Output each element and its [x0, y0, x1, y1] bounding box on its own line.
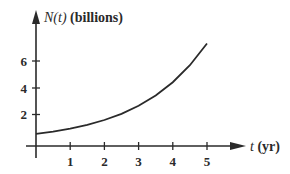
x-axis-title: t (yr)	[250, 139, 280, 155]
x-tick-label: 4	[170, 154, 177, 169]
y-axis-arrow-icon	[32, 10, 40, 24]
y-axis-var: N(t)	[43, 10, 67, 26]
y-ticks: 246	[21, 54, 41, 123]
y-tick-label: 2	[21, 107, 28, 122]
x-tick-label: 5	[204, 154, 211, 169]
growth-curve	[36, 44, 207, 134]
y-axis-unit: (billions)	[70, 10, 123, 26]
x-axis-arrow-icon	[230, 142, 246, 150]
x-tick-label: 3	[135, 154, 142, 169]
x-axis-var: t	[250, 139, 255, 154]
y-tick-label: 6	[21, 54, 28, 69]
x-tick-label: 2	[101, 154, 108, 169]
y-axis-title: N(t) (billions)	[43, 10, 123, 26]
x-axis-unit: (yr)	[257, 139, 280, 155]
y-tick-label: 4	[21, 81, 28, 96]
exponential-growth-chart: 12345 246 N(t) (billions) t (yr)	[0, 0, 290, 174]
x-tick-label: 1	[67, 154, 74, 169]
